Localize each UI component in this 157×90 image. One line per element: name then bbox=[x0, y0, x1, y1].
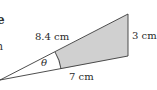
angle-theta-label: θ bbox=[41, 58, 47, 68]
diagram-figure: e n 8.4 cm 3 cm 7 cm θ bbox=[0, 0, 157, 90]
right-side-label: 3 cm bbox=[132, 31, 157, 41]
base-side-label: 7 cm bbox=[69, 72, 94, 82]
cutoff-text-fragment-top: e bbox=[0, 14, 5, 26]
slant-side-label: 8.4 cm bbox=[35, 32, 69, 42]
cutoff-text-fragment-middle: n bbox=[0, 41, 3, 52]
